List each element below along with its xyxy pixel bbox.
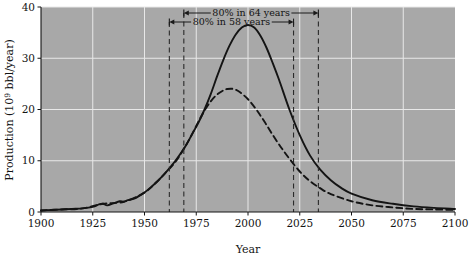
y-axis-title: Production (109 bbl/year) bbox=[3, 39, 17, 180]
svg-text:Production (109 bbl/year): Production (109 bbl/year) bbox=[3, 39, 17, 180]
y-axis-title-tail: bbl/year) bbox=[3, 39, 16, 93]
x-axis-title: Year bbox=[235, 243, 261, 256]
y-axis-title-main: Production (10 bbox=[3, 98, 16, 181]
x-tick-label: 2000 bbox=[235, 217, 262, 229]
y-tick-label: 40 bbox=[22, 1, 35, 13]
figure-container: 80% in 64 years80% in 58 years 190019251… bbox=[0, 0, 475, 258]
y-tick-label: 0 bbox=[28, 206, 35, 218]
x-tick-label: 2050 bbox=[338, 217, 365, 229]
x-tick-label: 1975 bbox=[183, 217, 210, 229]
annotation-label: 80% in 58 years bbox=[193, 16, 271, 27]
y-tick-label: 30 bbox=[22, 52, 35, 64]
y-tick-label: 10 bbox=[22, 154, 35, 166]
y-axis-ticks: 010203040 bbox=[22, 1, 41, 218]
x-tick-label: 2100 bbox=[442, 217, 469, 229]
x-tick-label: 1925 bbox=[79, 217, 106, 229]
x-tick-label: 2025 bbox=[286, 217, 313, 229]
x-tick-label: 1950 bbox=[131, 217, 158, 229]
x-tick-label: 1900 bbox=[28, 217, 55, 229]
x-axis-ticks: 190019251950197520002025205020752100 bbox=[28, 212, 469, 229]
production-chart: 80% in 64 years80% in 58 years 190019251… bbox=[0, 0, 475, 258]
x-tick-label: 2075 bbox=[390, 217, 417, 229]
y-tick-label: 20 bbox=[22, 103, 35, 115]
